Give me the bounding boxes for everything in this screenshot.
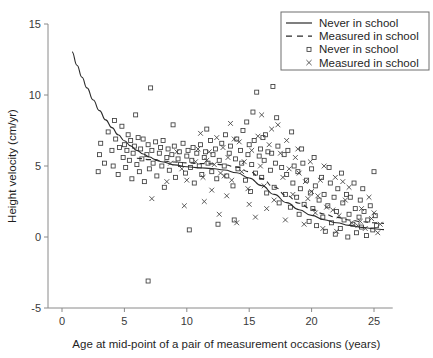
x-tick-label: 10 [181, 315, 193, 327]
scatter-point-square [358, 198, 362, 202]
scatter-point-square [129, 138, 133, 142]
scatter-point-cross [308, 159, 313, 164]
scatter-point-square [159, 146, 163, 150]
scatter-point-cross [287, 166, 292, 171]
scatter-point-cross [372, 210, 377, 215]
scatter-point-square [252, 138, 256, 142]
scatter-point-square [374, 224, 378, 228]
scatter-series-never-in-school [96, 84, 378, 283]
scatter-point-cross [217, 212, 222, 217]
scatter-point-square [130, 177, 134, 181]
scatter-point-square [295, 195, 299, 199]
scatter-point-cross [259, 112, 264, 117]
scatter-point-square [147, 167, 151, 171]
scatter-point-cross [204, 158, 209, 163]
scatter-point-cross [305, 196, 310, 201]
scatter-point-square [271, 84, 275, 88]
scatter-point-cross [201, 175, 206, 180]
x-tick-label: 25 [368, 315, 380, 327]
scatter-point-square [191, 146, 195, 150]
scatter-point-square [282, 153, 286, 157]
scatter-point-square [205, 127, 209, 131]
scatter-point-square [126, 133, 130, 137]
scatter-point-square [192, 181, 196, 185]
scatter-point-square [181, 141, 185, 145]
x-axis-title: Age at mid-point of a pair of measuremen… [72, 338, 380, 350]
scatter-point-cross [224, 193, 229, 198]
scatter-point-cross [324, 205, 329, 210]
y-tick-label: -5 [31, 302, 41, 314]
scatter-point-cross [218, 171, 223, 176]
scatter-point-square [352, 181, 356, 185]
legend-item-label: Measured in school [319, 57, 419, 69]
scatter-point-cross [280, 175, 285, 180]
x-tick-label: 15 [243, 315, 255, 327]
scatter-point-square [210, 170, 214, 174]
scatter-point-cross [267, 142, 272, 147]
scatter-point-square [185, 154, 189, 158]
scatter-point-square [258, 147, 262, 151]
y-tick-label: 15 [29, 18, 41, 30]
scatter-point-square [127, 158, 131, 162]
scatter-point-square [97, 153, 101, 157]
scatter-point-square [111, 164, 115, 168]
scatter-point-cross [343, 198, 348, 203]
scatter-point-cross [302, 222, 307, 227]
scatter-point-cross [334, 229, 339, 234]
scatter-point-square [291, 181, 295, 185]
scatter-point-square [167, 168, 171, 172]
scatter-point-cross [333, 175, 338, 180]
scatter-point-square [300, 147, 304, 151]
scatter-point-square [146, 279, 150, 283]
scatter-point-cross [309, 189, 314, 194]
scatter-point-square [204, 150, 208, 154]
scatter-point-cross [232, 137, 237, 142]
scatter-point-square [268, 168, 272, 172]
scatter-point-square [162, 185, 166, 189]
scatter-point-cross [322, 164, 327, 169]
scatter-point-square [131, 151, 135, 155]
y-tick-label: 5 [35, 160, 41, 172]
scatter-point-cross [164, 179, 169, 184]
scatter-point-square [187, 228, 191, 232]
scatter-point-square [216, 222, 220, 226]
chart-canvas: -5051015 0510152025 Height velocity (cm/… [0, 0, 433, 358]
scatter-point-cross [258, 164, 263, 169]
height-velocity-chart-figure: -5051015 0510152025 Height velocity (cm/… [0, 0, 433, 358]
scatter-point-square [171, 123, 175, 127]
scatter-point-square [338, 226, 342, 230]
scatter-point-square [117, 146, 121, 150]
scatter-point-square [286, 148, 290, 152]
scatter-point-square [134, 113, 138, 117]
scatter-point-square [199, 143, 203, 147]
scatter-point-square [347, 212, 351, 216]
x-tick-label: 20 [305, 315, 317, 327]
scatter-point-cross [320, 226, 325, 231]
scatter-point-square [160, 164, 164, 168]
scatter-point-square [222, 164, 226, 168]
scatter-point-square [231, 184, 235, 188]
scatter-point-cross [202, 199, 207, 204]
scatter-point-square [301, 161, 305, 165]
chart-legend: Never in schoolMeasured in schoolNever i… [281, 12, 429, 70]
fit-curve-solid [72, 52, 384, 230]
scatter-point-square [209, 138, 213, 142]
scatter-point-square [121, 155, 125, 159]
legend-item-label: Never in school [319, 17, 398, 29]
scatter-point-square [125, 148, 129, 152]
scatter-point-square [174, 175, 178, 179]
scatter-point-square [238, 148, 242, 152]
scatter-point-square [298, 187, 302, 191]
scatter-point-square [263, 133, 267, 137]
scatter-point-cross [272, 198, 277, 203]
scatter-point-square [251, 110, 255, 114]
scatter-point-cross [375, 230, 380, 235]
y-tick-label: 0 [35, 231, 41, 243]
scatter-point-square [214, 147, 218, 151]
scatter-point-square [310, 167, 314, 171]
y-tick-label: 10 [29, 89, 41, 101]
fitted-curves-group [72, 52, 384, 230]
scatter-point-square [154, 140, 158, 144]
x-tick-label: 5 [121, 315, 127, 327]
scatter-point-square [141, 137, 145, 141]
